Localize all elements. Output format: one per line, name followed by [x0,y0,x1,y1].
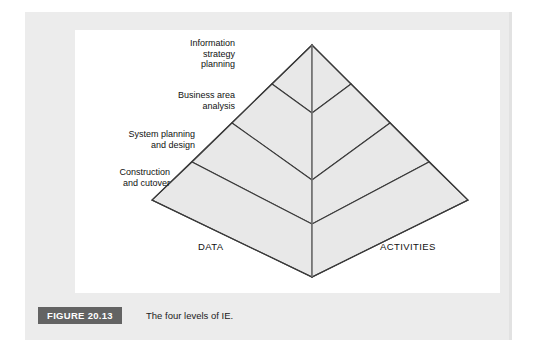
tier-label-information-strategy-planning: Information strategy planning [150,38,235,70]
tier-3-line-1: System planning [110,129,195,140]
tier-1-line-1: Information [150,38,235,49]
tier-2-line-2: analysis [150,101,235,112]
tier-2-line-1: Business area [150,90,235,101]
tier-label-construction-and-cutover: Construction and cutover [88,167,170,188]
tier-4-line-2: and cutover [88,178,170,189]
face-label-activities: ACTIVITIES [380,241,436,252]
figure-page: Information strategy planning Business a… [0,0,540,357]
pyramid-diagram [0,0,540,357]
tier-1-line-2: strategy [150,49,235,60]
figure-caption-text: The four levels of IE. [146,310,233,321]
tier-4-line-1: Construction [88,167,170,178]
figure-caption-row: FIGURE 20.13 The four levels of IE. [38,305,478,325]
figure-number-badge: FIGURE 20.13 [38,307,122,324]
tier-3-line-2: and design [110,140,195,151]
tier-1-line-3: planning [150,59,235,70]
face-label-data: DATA [198,241,224,252]
tier-label-business-area-analysis: Business area analysis [150,90,235,111]
tier-label-system-planning-and-design: System planning and design [110,129,195,150]
